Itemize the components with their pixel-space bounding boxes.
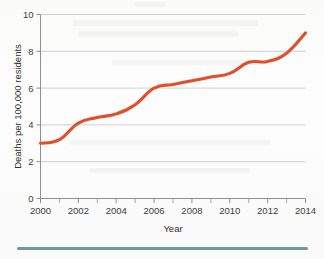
x-axis-title: Year: [163, 223, 182, 234]
x-tick-label-2008: 2008: [181, 205, 202, 216]
gridlines-group: [41, 15, 306, 162]
ticks-group: [37, 15, 306, 204]
x-tick-label-2004: 2004: [106, 205, 127, 216]
x-tick-label-2010: 2010: [219, 205, 240, 216]
x-tick-label-2006: 2006: [144, 205, 165, 216]
x-tick-label-2002: 2002: [68, 205, 89, 216]
x-tick-label-2012: 2012: [257, 205, 278, 216]
chart-plot: 024681020002002200420062008201020122014 …: [0, 0, 324, 259]
y-tick-label-0: 0: [28, 193, 33, 204]
y-tick-label-10: 10: [23, 9, 34, 20]
y-axis-title: Deaths per 100,000 residents: [12, 44, 23, 169]
x-tick-label-2000: 2000: [30, 205, 51, 216]
axes-group: [41, 15, 306, 199]
chart-figure: 024681020002002200420062008201020122014 …: [0, 0, 324, 259]
x-tick-label-2014: 2014: [295, 205, 316, 216]
y-tick-label-6: 6: [28, 83, 33, 94]
y-tick-label-2: 2: [28, 156, 33, 167]
tick-labels-group: 024681020002002200420062008201020122014: [23, 9, 316, 216]
y-tick-label-4: 4: [28, 119, 33, 130]
y-tick-label-8: 8: [28, 46, 33, 57]
bottom-divider-rule: [17, 247, 308, 250]
